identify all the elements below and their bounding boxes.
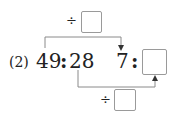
arrow-up-icon [152, 75, 158, 81]
answer-input[interactable] [142, 49, 167, 75]
right-ratio-sep: : [131, 51, 138, 71]
divide-symbol-bottom: ÷ [100, 93, 111, 106]
left-ratio-b: 28 [69, 51, 94, 71]
divide-symbol-top: ÷ [66, 14, 77, 27]
right-ratio-a: 7 [116, 51, 129, 71]
left-ratio-sep: : [60, 51, 67, 71]
bottom-divisor-input[interactable] [114, 89, 136, 111]
top-divisor-input[interactable] [81, 11, 102, 33]
problem-label: (2) [9, 55, 29, 69]
left-ratio-a: 49 [36, 51, 61, 71]
